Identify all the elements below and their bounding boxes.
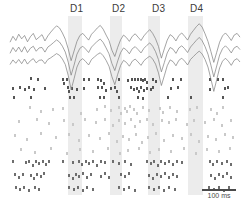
spike-tick	[34, 186, 36, 189]
event-label-d2: D2	[112, 3, 125, 14]
spike-tick	[68, 186, 70, 189]
spike-tick	[127, 79, 129, 82]
spike-tick	[45, 163, 47, 166]
spike-tick	[133, 108, 135, 111]
spike-tick	[75, 173, 77, 176]
spike-tick	[50, 147, 52, 150]
spike-tick	[97, 86, 99, 89]
spike-tick	[222, 175, 224, 178]
spike-tick	[131, 78, 133, 81]
spike-tick	[28, 160, 30, 163]
spike-tick	[164, 162, 166, 165]
spike-tick	[146, 87, 148, 90]
spike-tick	[210, 108, 212, 111]
spike-tick	[153, 160, 155, 163]
spike-tick	[82, 172, 84, 175]
spike-tick	[167, 96, 169, 99]
spike-tick	[36, 118, 38, 121]
spike-tick	[152, 86, 154, 89]
lfp-traces-layer	[10, 24, 240, 92]
spike-tick	[148, 109, 150, 112]
spike-tick	[124, 160, 126, 163]
spike-tick	[146, 160, 148, 163]
lfp-trace-1	[10, 24, 240, 63]
spike-tick	[112, 160, 114, 163]
spike-tick	[38, 188, 40, 191]
spike-tick	[157, 164, 159, 167]
spike-tick	[142, 106, 144, 109]
spike-tick	[172, 134, 174, 137]
spike-tick	[210, 174, 212, 177]
spike-tick	[177, 86, 179, 89]
spike-tick	[193, 119, 195, 122]
spike-tick	[163, 189, 165, 192]
spike-tick	[40, 175, 42, 178]
spike-tick	[83, 87, 85, 90]
scale-bar-line	[202, 189, 236, 191]
spike-tick	[152, 78, 154, 81]
spike-tick	[174, 188, 176, 191]
spike-tick	[120, 112, 122, 115]
spike-tick	[97, 78, 99, 81]
spike-tick	[78, 160, 80, 163]
spike-tick	[82, 189, 84, 192]
spike-tick	[168, 121, 170, 124]
spike-tick	[15, 186, 17, 189]
spike-tick	[155, 80, 157, 83]
spike-tick	[24, 88, 26, 91]
spike-tick	[207, 135, 209, 138]
spike-tick	[143, 89, 145, 92]
spike-tick	[28, 189, 30, 192]
spike-tick	[99, 96, 101, 99]
spike-tick	[133, 88, 135, 91]
spike-tick	[172, 173, 174, 176]
spike-tick	[156, 173, 158, 176]
neural-raster-figure: D1D2D3D4 100 ms	[0, 0, 247, 204]
event-label-d1: D1	[70, 3, 83, 14]
spike-tick	[148, 186, 150, 189]
spike-tick	[67, 86, 69, 89]
spike-tick	[103, 82, 105, 85]
spike-tick	[38, 162, 40, 165]
spike-tick	[148, 174, 150, 177]
spike-tick	[153, 188, 155, 191]
spike-tick	[68, 174, 70, 177]
spike-tick	[100, 160, 102, 163]
spike-tick	[162, 111, 164, 114]
spike-tick	[118, 186, 120, 189]
spike-tick	[130, 163, 132, 166]
spike-tick	[78, 139, 80, 142]
spike-tick	[30, 174, 32, 177]
spike-tick	[169, 106, 171, 109]
spike-tick	[196, 106, 198, 109]
spike-tick	[160, 175, 162, 178]
spike-tick	[168, 186, 170, 189]
spike-tick	[160, 160, 162, 163]
spike-tick	[209, 160, 211, 163]
spike-tick	[14, 173, 16, 176]
spike-tick	[149, 151, 151, 154]
spike-tick	[20, 148, 22, 151]
spike-tick	[62, 160, 64, 163]
spike-tick	[183, 147, 185, 150]
spike-tick	[181, 161, 183, 164]
spike-tick	[159, 107, 161, 110]
spike-tick	[176, 110, 178, 113]
spike-tick	[83, 78, 85, 81]
spike-tick	[118, 106, 120, 109]
spike-tick	[78, 175, 80, 178]
spike-tick	[103, 96, 105, 99]
spike-tick	[105, 89, 107, 92]
spike-tick	[79, 148, 81, 151]
spike-tick	[114, 86, 116, 89]
spike-tick	[224, 87, 226, 90]
event-band-d4	[188, 16, 203, 195]
spike-tick	[136, 112, 138, 115]
spike-tick	[128, 186, 130, 189]
spike-tick	[190, 96, 192, 99]
spike-tick	[37, 78, 39, 81]
spike-tick	[23, 186, 25, 189]
spike-tick	[19, 188, 21, 191]
spike-tick	[189, 108, 191, 111]
spike-tick	[214, 177, 216, 180]
